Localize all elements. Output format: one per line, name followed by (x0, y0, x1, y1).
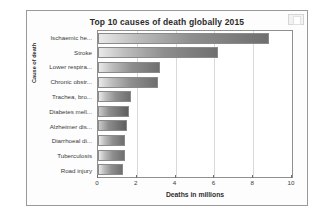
bar-row (98, 135, 292, 146)
bar-stroke[interactable] (98, 47, 218, 58)
y-tick-label: Alzheimer dis... (27, 121, 95, 132)
x-tick-label: 8 (250, 179, 253, 186)
bar-row (98, 164, 292, 175)
bar-lower-respira[interactable] (98, 62, 160, 73)
chart-figure: Top 10 causes of death globally 2015 Cau… (26, 10, 308, 206)
bar-row (98, 150, 292, 161)
x-tick-mark (136, 175, 137, 178)
bar-series (98, 31, 292, 177)
y-tick-label: Road injury (27, 165, 95, 176)
x-tick-label: 4 (173, 179, 176, 186)
bar-alzheimer-dis[interactable] (98, 120, 127, 131)
bar-trachea-bro[interactable] (98, 91, 131, 102)
plot-area (97, 30, 293, 178)
bar-row (98, 91, 292, 102)
x-tick-label: 10 (288, 179, 295, 186)
bar-diabetes-mell[interactable] (98, 106, 129, 117)
bar-row (98, 33, 292, 44)
bar-row (98, 62, 292, 73)
bar-road-injury[interactable] (98, 164, 123, 175)
bar-diarrhoeal-di[interactable] (98, 135, 125, 146)
y-tick-label: Diabetes mell... (27, 106, 95, 117)
y-tick-label: Trachea, bro... (27, 91, 95, 102)
y-tick-label: Chronic obstr... (27, 76, 95, 87)
x-axis-title: Deaths in millions (97, 191, 293, 198)
bar-row (98, 106, 292, 117)
bar-ischaemic-he[interactable] (98, 33, 269, 44)
bar-row (98, 47, 292, 58)
x-axis-tick-labels: 0246810 (97, 179, 293, 191)
x-tick-mark (291, 175, 292, 178)
x-tick-mark (97, 175, 98, 178)
chart-title: Top 10 causes of death globally 2015 (27, 17, 307, 27)
x-tick-label: 6 (212, 179, 215, 186)
bar-chronic-obstr[interactable] (98, 77, 158, 88)
y-axis-tick-labels: Ischaemic he... Stroke Lower respira... … (27, 30, 95, 178)
x-tick-mark (213, 175, 214, 178)
x-tick-mark (175, 175, 176, 178)
y-tick-label: Ischaemic he... (27, 32, 95, 43)
y-tick-label: Stroke (27, 47, 95, 58)
x-tick-label: 2 (134, 179, 137, 186)
y-tick-label: Lower respira... (27, 61, 95, 72)
bar-tuberculosis[interactable] (98, 150, 125, 161)
bar-row (98, 120, 292, 131)
x-tick-mark (252, 175, 253, 178)
y-tick-label: Diarrhoeal di... (27, 135, 95, 146)
bar-row (98, 77, 292, 88)
x-tick-label: 0 (95, 179, 98, 186)
y-tick-label: Tuberculosis (27, 150, 95, 161)
